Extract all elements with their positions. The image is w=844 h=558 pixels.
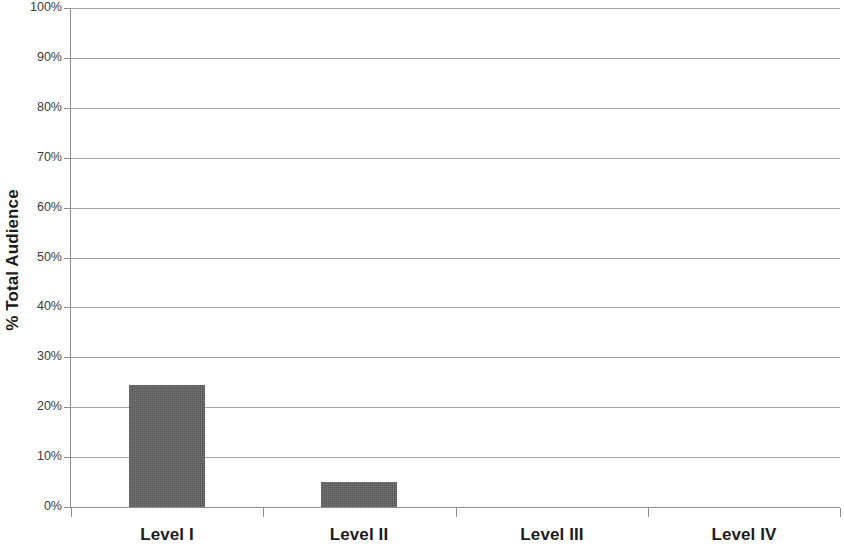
gridline — [71, 208, 840, 209]
y-tick-mark — [64, 58, 71, 59]
x-tick-label: Level III — [520, 525, 583, 545]
y-tick-label: 70% — [2, 151, 62, 164]
y-tick-label: 60% — [2, 201, 62, 214]
x-tick-label: Level II — [330, 525, 388, 545]
y-tick-mark — [64, 108, 71, 109]
y-tick-mark — [64, 307, 71, 308]
y-tick-label: 80% — [2, 101, 62, 114]
y-tick-mark — [64, 258, 71, 259]
gridline — [71, 58, 840, 59]
y-tick-label: 50% — [2, 251, 62, 264]
y-tick-label: 40% — [2, 300, 62, 313]
gridline — [71, 307, 840, 308]
y-tick-mark — [64, 8, 71, 9]
y-tick-label: 90% — [2, 51, 62, 64]
x-tick-mark — [456, 508, 457, 517]
y-tick-mark — [64, 507, 71, 508]
y-tick-label: 10% — [2, 450, 62, 463]
y-tick-mark — [64, 208, 71, 209]
y-tick-mark — [64, 407, 71, 408]
gridline — [71, 108, 840, 109]
bar-chart: % Total Audience 100%90%80%70%60%50%40%3… — [0, 0, 844, 558]
gridline — [71, 357, 840, 358]
gridline — [71, 258, 840, 259]
y-tick-mark — [64, 457, 71, 458]
bar — [321, 482, 397, 507]
plot-area — [71, 8, 840, 507]
x-tick-mark — [648, 508, 649, 517]
y-tick-label: 0% — [2, 500, 62, 513]
x-tick-label: Level I — [140, 525, 194, 545]
y-tick-mark — [64, 357, 71, 358]
y-tick-label: 20% — [2, 400, 62, 413]
y-tick-label: 100% — [2, 1, 62, 14]
x-tick-label: Level IV — [711, 525, 776, 545]
x-tick-mark — [263, 508, 264, 517]
x-tick-mark — [840, 508, 841, 517]
y-tick-mark — [64, 158, 71, 159]
bar — [129, 385, 205, 507]
gridline — [71, 158, 840, 159]
y-tick-label: 30% — [2, 350, 62, 363]
x-tick-mark — [71, 508, 72, 517]
gridline — [71, 8, 840, 9]
